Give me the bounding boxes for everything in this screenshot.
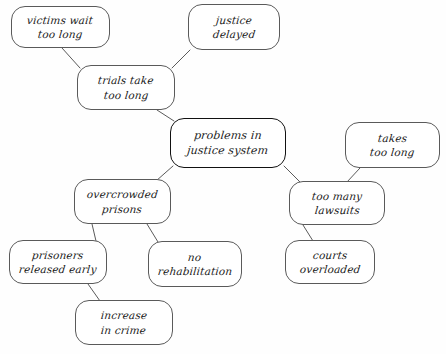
node-victims-wait-too-long[interactable]: victims waittoo long xyxy=(11,6,110,48)
node-label-line: overcrowded xyxy=(86,187,159,201)
node-label-line: justice system xyxy=(187,143,270,158)
edge-overcrowded-to-prisoners xyxy=(92,224,96,241)
node-label-line: too long xyxy=(103,88,149,102)
node-justice-delayed[interactable]: justicedelayed xyxy=(188,4,280,50)
node-problems-in-justice-system[interactable]: problems injustice system xyxy=(170,118,286,168)
concept-map-canvas: victims waittoo longjusticedelayedtrials… xyxy=(0,0,446,354)
node-too-many-lawsuits[interactable]: too manylawsuits xyxy=(289,181,385,225)
node-trials-take-too-long[interactable]: trials taketoo long xyxy=(77,65,175,110)
node-label-line: in crime xyxy=(101,323,148,337)
edge-overcrowded-to-no-rehab xyxy=(147,224,158,242)
node-increase-in-crime[interactable]: increasein crime xyxy=(75,300,173,345)
connector-layer xyxy=(0,0,446,354)
node-label-line: released early xyxy=(18,262,97,276)
edge-takes-too-long-to-lawsuits xyxy=(347,168,360,182)
node-label-line: justice xyxy=(215,13,253,27)
node-no-rehabilitation[interactable]: norehabilitation xyxy=(148,241,242,287)
node-courts-overloaded[interactable]: courtsoverloaded xyxy=(285,240,375,284)
edge-justice-delayed-to-trials xyxy=(172,50,190,68)
edge-problems-to-lawsuits xyxy=(284,166,301,183)
edge-victims-to-trials xyxy=(62,48,80,68)
node-takes-too-long[interactable]: takestoo long xyxy=(345,122,440,168)
node-label-line: courts xyxy=(312,248,348,262)
node-prisoners-released-early[interactable]: prisonersreleased early xyxy=(9,240,107,284)
node-label-line: overloaded xyxy=(299,262,361,276)
node-label-line: prisons xyxy=(102,202,144,216)
node-label-line: victims wait xyxy=(27,13,95,27)
node-label-line: too long xyxy=(37,27,83,41)
node-label-line: lawsuits xyxy=(314,203,360,217)
node-label-line: trials take xyxy=(97,73,154,87)
node-label-line: delayed xyxy=(212,27,256,41)
node-overcrowded-prisons[interactable]: overcrowdedprisons xyxy=(74,179,171,224)
edge-trials-to-problems xyxy=(157,110,174,121)
edge-lawsuits-to-courts xyxy=(303,225,313,241)
node-label-line: too many xyxy=(311,189,363,203)
node-label-line: too long xyxy=(369,145,415,159)
node-label-line: rehabilitation xyxy=(157,264,233,278)
node-label-line: problems in xyxy=(193,128,262,143)
node-label-line: no xyxy=(188,250,203,264)
node-label-line: increase xyxy=(100,308,148,322)
node-label-line: takes xyxy=(377,131,408,145)
edge-prisoners-to-increase-crime xyxy=(88,284,100,301)
node-label-line: prisoners xyxy=(31,248,84,262)
